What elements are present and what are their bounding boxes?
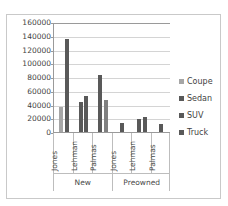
legend-item-truck[interactable]: Truck (179, 124, 228, 141)
legend-label: SUV (187, 111, 203, 120)
y-axis-tick-mark (51, 78, 54, 79)
legend-swatch-icon (179, 113, 184, 118)
gridline (54, 64, 170, 65)
y-axis-tick-mark (51, 92, 54, 93)
legend-label: Sedan (187, 94, 212, 103)
legend-swatch-icon (179, 79, 184, 84)
bar (79, 102, 83, 132)
category-label: Lehman (71, 141, 79, 171)
chart-container: 1600001400001200001000008000060000400002… (6, 14, 221, 199)
bar (104, 100, 108, 132)
plot-area (53, 23, 170, 133)
legend-swatch-icon (179, 130, 184, 135)
y-axis-tick-label: 160000 (22, 19, 51, 27)
group-label: Preowned (123, 178, 160, 187)
y-axis-tick-label: 80000 (27, 74, 51, 82)
bar (84, 96, 88, 132)
y-axis-tick-label: 60000 (27, 88, 51, 96)
gridline (54, 78, 170, 79)
gridline (54, 106, 170, 107)
chart-legend: CoupeSedanSUVTruck (179, 73, 228, 141)
category-label: Jones (110, 151, 118, 171)
category-label: Lehman (129, 141, 137, 171)
group-label-cell: New (54, 173, 113, 191)
category-label: Palmas (90, 144, 98, 171)
bar (120, 123, 124, 132)
plot-top-rule (54, 23, 170, 24)
category-axis-inner: JonesLehmanPalmasJonesLehmanPalmas (54, 133, 169, 174)
legend-swatch-icon (179, 96, 184, 101)
y-axis-tick-mark (51, 106, 54, 107)
bar (137, 119, 141, 132)
category-label-cell: Palmas (152, 133, 172, 173)
y-axis-tick-label: 100000 (22, 60, 51, 68)
category-axis: JonesLehmanPalmasJonesLehmanPalmas NewPr… (53, 133, 170, 191)
bar (143, 117, 147, 132)
y-axis-tick-mark (51, 64, 54, 65)
bar (98, 75, 102, 132)
category-label: Palmas (149, 144, 157, 171)
legend-item-suv[interactable]: SUV (179, 107, 228, 124)
legend-label: Truck (187, 128, 208, 137)
bar (159, 124, 163, 132)
gridline (54, 51, 170, 52)
y-axis-tick-mark (51, 51, 54, 52)
y-axis-tick-label: 40000 (27, 102, 51, 110)
y-axis-tick-mark (51, 37, 54, 38)
y-axis-tick-label: 20000 (27, 115, 51, 123)
y-axis-tick-mark (51, 119, 54, 120)
legend-label: Coupe (187, 77, 213, 86)
legend-item-sedan[interactable]: Sedan (179, 90, 228, 107)
category-label: Jones (51, 151, 59, 171)
bar (59, 107, 63, 132)
y-axis-tick-mark (51, 23, 54, 24)
category-axis-groups: NewPreowned (54, 173, 169, 191)
legend-item-coupe[interactable]: Coupe (179, 73, 228, 90)
y-axis-tick-label: 140000 (22, 33, 51, 41)
bar (65, 39, 69, 132)
gridline (54, 119, 170, 120)
gridline (54, 37, 170, 38)
y-axis: 1600001400001200001000008000060000400002… (7, 23, 51, 133)
group-label-cell: Preowned (113, 173, 172, 191)
group-label: New (75, 178, 91, 187)
y-axis-tick-label: 120000 (22, 47, 51, 55)
gridline (54, 92, 170, 93)
